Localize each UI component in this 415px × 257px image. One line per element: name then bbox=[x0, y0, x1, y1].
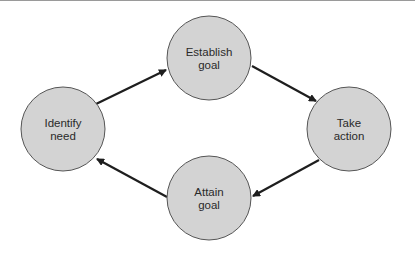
label-identify-need: Identify need bbox=[21, 117, 105, 143]
label-line: Take bbox=[307, 117, 391, 130]
edge-identify-to-establish bbox=[96, 70, 166, 104]
label-line: Attain bbox=[167, 186, 251, 199]
label-line: Identify bbox=[21, 117, 105, 130]
label-line: need bbox=[21, 130, 105, 143]
edge-take-to-attain bbox=[253, 160, 319, 196]
label-line: action bbox=[307, 130, 391, 143]
label-line: goal bbox=[167, 199, 251, 212]
edge-establish-to-take bbox=[252, 66, 316, 101]
edge-attain-to-identify bbox=[97, 159, 167, 197]
label-line: goal bbox=[167, 59, 251, 72]
label-take-action: Take action bbox=[307, 117, 391, 143]
label-line: Establish bbox=[167, 46, 251, 59]
label-attain-goal: Attain goal bbox=[167, 186, 251, 212]
label-establish-goal: Establish goal bbox=[167, 46, 251, 72]
